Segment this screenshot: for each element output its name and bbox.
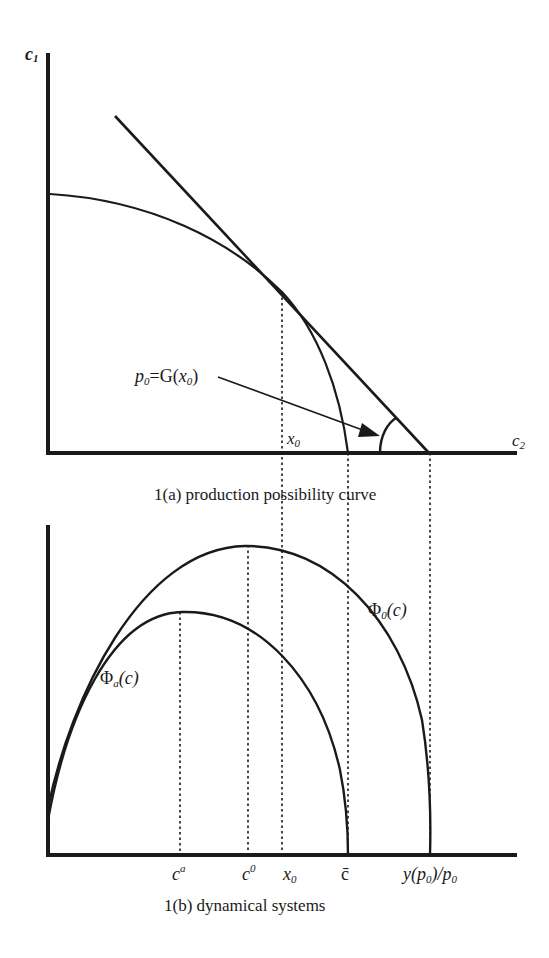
tick-label-ca: ca <box>172 862 186 884</box>
guide-lines <box>180 292 430 855</box>
production-possibility-curve <box>50 194 348 453</box>
angle-arc <box>380 418 396 453</box>
phi-0-label: Φ0(c) <box>368 600 407 621</box>
caption-b: 1(b) dynamical systems <box>164 896 325 915</box>
price-annotation-label: p0=G(x0) <box>133 366 198 387</box>
arrowhead-icon <box>358 423 380 437</box>
caption-a: 1(a) production possibility curve <box>154 485 376 504</box>
annotation-arrow-line <box>218 377 368 432</box>
tick-label-y-over-p: y(p0)/p0 <box>401 864 457 885</box>
y-axis-label-c1: c1 <box>25 44 39 64</box>
phi-0-curve <box>48 546 430 855</box>
price-tangent-line <box>115 116 429 453</box>
figure-canvas: c1 c2 p0=G(x0) x0 1(a) production possib… <box>0 0 549 958</box>
phi-a-label: Φa(c) <box>100 668 139 689</box>
tick-label-c0: c0 <box>242 862 256 884</box>
tick-label-cbar: c̄ <box>341 864 349 884</box>
tick-label-x0-b: x0 <box>282 864 297 885</box>
phi-a-curve <box>48 612 348 855</box>
tick-label-x0-a: x0 <box>286 429 301 449</box>
figure-a: c1 c2 p0=G(x0) x0 1(a) production possib… <box>25 44 526 504</box>
x-axis-label-c2: c2 <box>512 431 526 451</box>
